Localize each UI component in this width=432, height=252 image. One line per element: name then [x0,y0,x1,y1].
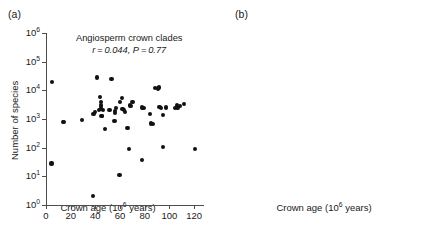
data-point [120,96,124,100]
data-point [128,104,132,108]
x-tick-label-0: 0 [43,211,48,221]
data-point [130,100,134,104]
x-tick-label-1: 20 [65,211,76,221]
y-tick-label-6: 106 [26,28,40,38]
data-point [161,145,165,149]
data-point [159,106,163,110]
data-point [80,118,84,122]
data-point [93,110,97,114]
data-point [49,161,53,165]
x-tick-3 [120,205,121,209]
y-tick-3 [42,119,46,120]
data-point [148,112,152,116]
data-point [157,85,161,89]
data-point [118,100,122,104]
x-tick-label-5: 100 [162,211,178,221]
panel-a-annotation-title: Angiosperm crown clades [76,32,182,44]
data-point [125,126,129,130]
data-point [62,120,66,124]
data-point [103,127,107,131]
y-tick-6 [42,33,46,34]
data-point [151,122,155,126]
data-point [182,102,186,106]
data-point [164,105,168,109]
y-tick-4 [42,90,46,91]
y-tick-2 [42,148,46,149]
x-tick-1 [71,205,72,209]
y-tick-label-5: 105 [26,57,40,67]
data-point [109,77,113,81]
data-point [95,75,99,79]
panel-b-x-axis-title: Crown age (106 years) [276,203,371,213]
x-tick-5 [169,205,170,209]
x-tick-label-2: 40 [90,211,101,221]
panel-a-y-axis-title: Number of species [10,81,20,160]
data-point [113,111,117,115]
x-tick-label-6: 120 [186,211,202,221]
x-tick-2 [95,205,96,209]
x-tick-label-3: 60 [115,211,126,221]
panel-b: (b) Crown age (106 years) Simulated clad… [216,0,432,252]
data-point [91,194,95,198]
data-point [50,80,54,84]
data-point [123,110,127,114]
x-tick-0 [46,205,47,209]
y-tick-label-0: 100 [26,200,40,210]
panel-a-letter: (a) [8,8,21,20]
data-point [141,106,145,110]
data-point [117,173,121,177]
y-tick-label-3: 103 [26,114,40,124]
panel-a-annotation: Angiosperm crown clades r = 0.044, P = 0… [76,32,182,56]
x-tick-label-4: 80 [139,211,150,221]
data-point [193,147,197,151]
data-point [100,114,104,118]
data-point [101,108,105,112]
data-point [140,158,144,162]
y-tick-label-2: 102 [26,143,40,153]
data-point [127,147,131,151]
figure-root: (a) Number of species Crown age (106 yea… [0,0,432,252]
y-tick-1 [42,176,46,177]
y-tick-5 [42,62,46,63]
y-tick-label-4: 104 [26,86,40,96]
y-tick-label-1: 101 [26,172,40,182]
data-point [98,95,102,99]
panel-a-plot-area: Angiosperm crown clades r = 0.044, P = 0… [46,33,204,205]
x-tick-4 [145,205,146,209]
data-point [114,106,118,110]
data-point [112,119,116,123]
panel-a-x-axis-line [46,205,204,206]
data-point [107,108,111,112]
panel-a: (a) Number of species Crown age (106 yea… [0,0,216,252]
panel-a-annotation-stat: r = 0.044, P = 0.77 [76,44,182,56]
x-tick-6 [194,205,195,209]
data-point [161,113,165,117]
panel-b-letter: (b) [235,8,248,20]
